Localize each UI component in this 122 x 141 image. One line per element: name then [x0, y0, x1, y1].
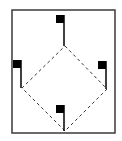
flag-square-icon [13, 60, 21, 68]
right-flag [98, 61, 106, 89]
flag-square-icon [98, 61, 106, 69]
left-flag [13, 60, 21, 88]
bottom-flag [56, 105, 64, 131]
flag-diamond-diagram [0, 0, 122, 141]
top-flag [56, 15, 64, 46]
flag-square-icon [56, 105, 64, 113]
flag-square-icon [56, 15, 64, 23]
